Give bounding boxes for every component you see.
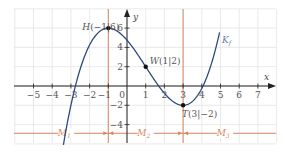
x-axis-label: x [264,72,269,82]
interval-subscript: 1 [67,132,71,139]
x-tick-label: −3 [64,90,78,100]
x-tick-label: −2 [83,90,96,100]
x-tick-label: −1 [98,90,111,100]
point-w-marker [144,65,148,69]
interval-arrow-icon [103,131,107,135]
x-tick-label: 5 [218,90,224,100]
axes [14,9,276,143]
point-t-marker [181,103,185,107]
interval-subscript: 2 [145,132,150,139]
y-tick-label: 2 [117,62,123,72]
x-tick-label: −5 [27,90,41,100]
curve-label-subscript: f [228,39,233,47]
x-tick-label: 6 [236,90,242,100]
interval-arrow-icon [178,131,182,135]
x-tick-label: 1 [143,90,149,100]
y-tick-label: 4 [117,42,123,52]
x-tick-label: 7 [255,90,261,100]
y-axis-arrow-icon [124,9,130,17]
y-axis-label: y [132,12,139,22]
x-tick-label: −4 [46,90,60,100]
x-tick-label: 0 [119,90,125,100]
interval-line: M1M2M3 [14,128,276,139]
interval-subscript: 3 [226,132,230,139]
y-tick-label: −4 [110,120,124,130]
x-tick-label: 3 [180,90,186,100]
point-h-label: H(−1|6) [81,22,119,33]
interval-arrow-icon [109,131,113,135]
y-tick-label: −2 [110,100,123,110]
grid-lines [14,9,277,144]
x-axis-arrow-icon [268,83,276,89]
curve-label: Kf [221,35,233,47]
interval-arrow-icon [184,131,188,135]
point-t-label: T(3|−2) [182,109,217,120]
function-graph: M1M2M3 −5−4−3−2−101234567642−2−4 H(−1|6)… [0,0,285,154]
point-w-label: W(1|2) [150,56,181,67]
